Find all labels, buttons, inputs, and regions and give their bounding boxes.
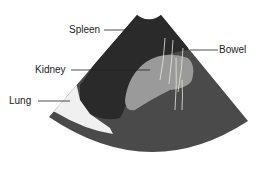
label-kidney: Kidney	[35, 64, 66, 76]
ultrasound-diagram	[0, 0, 258, 176]
label-spleen: Spleen	[69, 24, 100, 36]
label-lung: Lung	[9, 95, 31, 107]
label-bowel: Bowel	[219, 44, 246, 56]
